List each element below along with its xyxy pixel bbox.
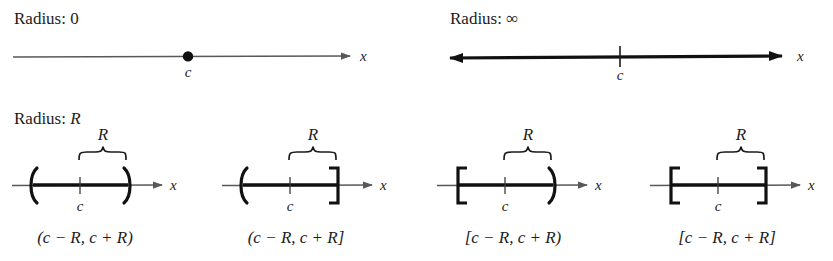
radius-zero-axis-variable: x xyxy=(360,49,367,64)
radius-infinity-center-label: c xyxy=(617,68,624,83)
figure-vector-layer xyxy=(0,0,833,261)
convergence-radius-figure: Radius: 0 Radius: ∞ Radius: R xyxy=(0,0,833,261)
radius-infinity-axis xyxy=(450,56,782,58)
interval-4-axis-variable: x xyxy=(808,178,815,193)
radius-infinity-number-line xyxy=(450,46,782,67)
interval-diagram-3 xyxy=(437,147,587,203)
radius-zero-center-point xyxy=(183,51,193,61)
interval-3-caption: [c − R, c + R) xyxy=(465,229,562,246)
radius-zero-axis xyxy=(13,56,350,57)
interval-3-brace-label: R xyxy=(523,126,533,143)
interval-diagram-1 xyxy=(12,147,162,203)
interval-4-caption: [c − R, c + R] xyxy=(678,229,776,246)
interval-1-brace-label: R xyxy=(98,126,108,143)
interval-2-brace-label: R xyxy=(308,126,318,143)
interval-3-center-label: c xyxy=(502,199,509,214)
interval-diagram-4 xyxy=(650,147,800,203)
interval-1-caption: (c − R, c + R) xyxy=(37,229,133,246)
interval-4-brace-label: R xyxy=(736,126,746,143)
interval-1-brace xyxy=(79,147,126,160)
interval-4-brace xyxy=(717,147,764,160)
interval-3-brace xyxy=(504,147,551,160)
interval-1-axis-variable: x xyxy=(170,178,177,193)
interval-2-brace xyxy=(289,147,336,160)
radius-zero-number-line xyxy=(13,51,350,61)
interval-4-center-label: c xyxy=(715,199,722,214)
interval-diagram-2 xyxy=(222,147,372,203)
interval-3-axis-variable: x xyxy=(595,178,602,193)
radius-infinity-axis-variable: x xyxy=(797,49,804,64)
interval-1-center-label: c xyxy=(77,199,84,214)
interval-2-axis-variable: x xyxy=(380,178,387,193)
radius-zero-center-label: c xyxy=(185,65,192,80)
interval-2-caption: (c − R, c + R] xyxy=(248,229,345,246)
interval-2-center-label: c xyxy=(287,199,294,214)
